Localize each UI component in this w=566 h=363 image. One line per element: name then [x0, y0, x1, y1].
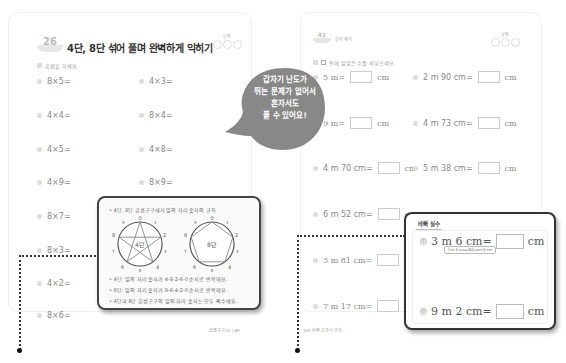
problem-text: 8×7= — [47, 212, 71, 221]
problem-text: 6 m 52 cm= — [323, 210, 373, 219]
problem-text: 4 m 73 cm= — [423, 119, 473, 128]
unit-number: 26 — [37, 36, 63, 47]
svg-text:3: 3 — [164, 249, 167, 254]
problem-9: 7 m 17 cm=cm — [313, 300, 416, 312]
answer-input[interactable] — [350, 71, 372, 83]
bullet-icon — [139, 180, 144, 185]
problem-text: 9 m= — [323, 119, 345, 128]
problem-10: 8×3= — [37, 246, 71, 255]
problem-text: 8×9= — [149, 178, 173, 187]
rule-line: • 4단: 일의 자리 숫자가 4-8-2-6-0 순서로 반복돼요. — [109, 275, 228, 282]
multiplication-rule-popup: • 4단, 8단 곱셈구구에서 일의 자리 숫자의 규칙 0 1 2 3 4 5… — [97, 196, 261, 310]
bubble-line: 뛰는 문제가 없어서 — [245, 86, 325, 98]
progress-label: 날짜 — [501, 31, 509, 37]
svg-text:6: 6 — [121, 264, 124, 270]
callout-line — [19, 255, 21, 350]
problem-text: 4×9= — [47, 178, 71, 187]
bullet-icon — [37, 214, 42, 219]
instruction-square-icon — [313, 60, 318, 65]
answer-input[interactable] — [478, 71, 500, 83]
problem-1: 8×5= — [37, 77, 71, 86]
callout-line — [19, 255, 99, 257]
page-title: 4단, 8단 섞어 풀며 완벽하게 익히기 — [67, 40, 213, 55]
callout-dot-icon — [295, 348, 300, 353]
answer-input[interactable] — [496, 234, 524, 249]
bullet-icon — [313, 212, 318, 217]
page-footer: 104 바빠 교과서 연산 — [303, 327, 342, 333]
answer-input[interactable] — [350, 117, 372, 129]
answer-input[interactable] — [378, 208, 400, 220]
problem-text: 2 m 90 cm= — [423, 73, 473, 82]
callout-line — [297, 235, 299, 350]
dial-4-icon: 0 1 2 3 4 5 6 7 8 9 4단 — [111, 215, 169, 273]
problem-text: 4×4= — [47, 111, 71, 120]
problem-text: 3 m 81 cm= — [323, 256, 372, 265]
problem-4: 8×4= — [139, 111, 173, 120]
problem-5: 4 m 70 cm=cm — [313, 162, 417, 174]
progress-icons — [213, 40, 242, 49]
bullet-icon — [37, 147, 42, 152]
unit-suffix: cm — [528, 235, 545, 248]
bullet-icon — [37, 180, 42, 185]
bullet-icon — [313, 304, 318, 309]
bubble-line: 풀 수 있어요! — [245, 110, 325, 122]
callout-line — [297, 235, 405, 237]
bullet-icon — [139, 79, 144, 84]
svg-text:3: 3 — [236, 249, 239, 254]
svg-text:2: 2 — [235, 232, 238, 238]
svg-text:0: 0 — [138, 215, 141, 221]
bullet-icon — [37, 313, 42, 318]
answer-input[interactable] — [496, 304, 524, 319]
instruction-text: 안에 알맞은 수를 써넣으세요. — [329, 59, 395, 66]
unit-badge: 41 — [313, 31, 331, 43]
svg-text:9: 9 — [194, 220, 197, 225]
unit-number: 41 — [313, 31, 331, 38]
answer-input[interactable] — [378, 162, 400, 174]
svg-text:8단: 8단 — [207, 241, 217, 248]
answer-input[interactable] — [478, 162, 500, 174]
unit-suffix: cm — [528, 305, 545, 318]
instruction-square-icon — [37, 63, 42, 68]
unit-suffix: cm — [505, 164, 517, 173]
bullet-icon — [413, 121, 418, 126]
hint-callout: 3 m 6 cm=300 cm+6 cm — [444, 246, 496, 254]
bullet-icon — [313, 166, 318, 171]
progress-circle-icon — [491, 38, 500, 47]
bullet-icon — [37, 113, 42, 118]
bullet-icon — [313, 258, 318, 263]
progress-circle-icon — [511, 38, 520, 47]
svg-text:4단: 4단 — [135, 241, 145, 248]
rule-heading: • 4단, 8단 곱셈구구에서 일의 자리 숫자의 규칙 — [109, 206, 216, 213]
problem-6: 5 m 38 cm=cm — [413, 162, 517, 174]
answer-input[interactable] — [377, 254, 399, 266]
answer-input[interactable] — [377, 300, 399, 312]
tip-problem-12: 12 9 m 2 cm= cm — [420, 304, 544, 319]
unit-suffix: cm — [377, 73, 389, 82]
problem-text: 4×5= — [47, 145, 71, 154]
problem-9: 8×7= — [37, 212, 71, 221]
answer-box-icon — [321, 60, 326, 65]
svg-text:9: 9 — [122, 220, 125, 225]
bubble-line: 갑자기 난도가 — [245, 74, 325, 86]
answer-input[interactable] — [478, 117, 500, 129]
rule-line: • 4단과 8단 곱셈구구의 일의 자리 숫자는 모두 짝수예요. — [109, 297, 238, 304]
svg-text:0: 0 — [210, 215, 213, 221]
callout-dot-icon — [17, 348, 22, 353]
common-mistake-popup: 바빠 실수 11 3 m 6 cm= cm 3 m 6 cm=300 cm+6 … — [404, 212, 556, 330]
problem-8: 8×9= — [139, 178, 173, 187]
progress-label: 날짜 — [223, 33, 231, 39]
bullet-icon — [37, 248, 42, 253]
svg-text:5: 5 — [211, 268, 214, 273]
svg-text:1: 1 — [226, 220, 229, 225]
rule-line: • 8단: 일의 자리 숫자가 8-6-4-2-0 순서로 반복돼요. — [109, 286, 228, 293]
svg-text:5: 5 — [139, 268, 142, 273]
svg-text:7: 7 — [112, 249, 115, 254]
unit-badge: 26 — [37, 36, 63, 52]
problem-text: 8×5= — [47, 77, 71, 86]
problem-text: 5 m 38 cm= — [423, 164, 473, 173]
svg-text:8: 8 — [184, 232, 187, 238]
progress-circle-icon — [223, 40, 232, 49]
instruction: 곱셈을 하세요. — [37, 62, 78, 69]
problem-number-icon: 12 — [420, 308, 427, 315]
section-label: 길이 재기 — [335, 36, 352, 42]
